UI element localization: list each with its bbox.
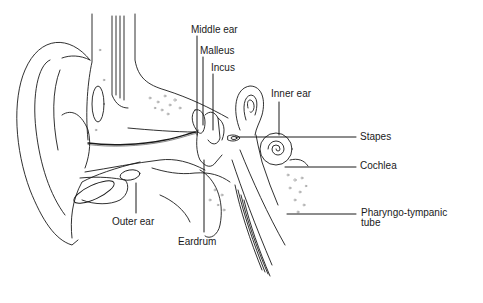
label-incus: Incus xyxy=(211,63,235,73)
label-outer-ear: Outer ear xyxy=(112,217,154,227)
pinna-outline xyxy=(17,42,140,245)
ossicles xyxy=(192,110,240,167)
label-malleus: Malleus xyxy=(200,46,234,56)
cochlea-shape xyxy=(260,133,308,166)
label-pharyngo-tympanic-tube: tube xyxy=(361,218,380,228)
ear-diagram: Middle ear Malleus Incus Inner ear Stape… xyxy=(0,0,483,303)
eustachian-tube xyxy=(232,135,285,276)
semicircular-canals xyxy=(236,86,264,135)
lower-bone xyxy=(160,170,221,237)
label-cochlea: Cochlea xyxy=(360,161,397,171)
ear-canal xyxy=(71,132,230,208)
label-middle-ear: Middle ear xyxy=(191,25,238,35)
leader-lines xyxy=(136,36,356,232)
ear-illustration xyxy=(0,0,483,303)
label-eardrum: Eardrum xyxy=(178,237,216,247)
bone-stipple xyxy=(95,49,307,213)
label-inner-ear: Inner ear xyxy=(271,89,311,99)
label-stapes: Stapes xyxy=(360,132,391,142)
